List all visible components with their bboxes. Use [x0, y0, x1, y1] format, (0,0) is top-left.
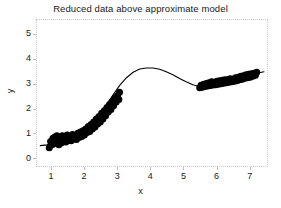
x-tick-label: 4 [142, 172, 158, 181]
y-tick-label: 1 [15, 129, 31, 138]
scatter-point [116, 89, 123, 96]
plot-area [36, 19, 268, 167]
plot-canvas [37, 20, 269, 168]
scatter-points-right-cluster [196, 69, 260, 91]
x-tick-label: 1 [43, 172, 59, 181]
y-tick-label: 2 [15, 104, 31, 113]
chart-figure: Reduced data above approximate model y x… [0, 0, 281, 208]
chart-title: Reduced data above approximate model [0, 3, 281, 14]
scatter-point [115, 96, 122, 103]
x-tick-label: 3 [109, 172, 125, 181]
x-tick-label: 5 [175, 172, 191, 181]
y-tick-label: 0 [15, 154, 31, 163]
x-tick-label: 7 [242, 172, 258, 181]
x-axis-label: x [0, 186, 281, 196]
y-axis-label: y [5, 84, 15, 98]
y-tick-label: 5 [15, 29, 31, 38]
scatter-points-left-cluster [46, 89, 123, 152]
scatter-point [253, 69, 260, 76]
y-tick-label: 4 [15, 54, 31, 63]
x-tick-label: 2 [76, 172, 92, 181]
y-tick-label: 3 [15, 79, 31, 88]
x-tick-label: 6 [209, 172, 225, 181]
